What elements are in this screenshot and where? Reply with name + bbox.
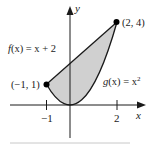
- point-2-4: [114, 19, 120, 25]
- x-tick-label-minus-1: −1: [41, 112, 53, 124]
- y-axis-label: y: [74, 2, 80, 14]
- curve-g-label: g(x) = x2: [103, 75, 141, 88]
- point-label-2-4: (2, 4): [122, 17, 145, 29]
- point-minus1-1: [44, 82, 50, 88]
- x-tick-label-2: 2: [114, 112, 120, 124]
- y-axis-arrow-icon: [67, 6, 74, 15]
- point-label-minus1-1: (−1, 1): [11, 79, 40, 91]
- x-axis-label: x: [135, 109, 141, 121]
- area-between-curves-diagram: y x −1 2 (2, 4) (−1, 1) f(x) = x + 2 g(x…: [0, 0, 154, 147]
- shaded-region: [47, 22, 118, 105]
- x-axis-arrow-icon: [137, 102, 146, 109]
- curve-f-label: f(x) = x + 2: [8, 43, 56, 55]
